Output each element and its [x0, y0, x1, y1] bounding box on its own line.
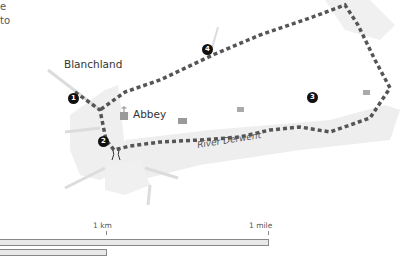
waypoint-1-marker: 1 [68, 93, 79, 104]
waypoint-2-marker: 2 [98, 136, 109, 147]
building-1 [178, 118, 187, 124]
scale-mile-tick [268, 231, 269, 235]
road-s2 [148, 185, 150, 205]
scale-bar-km [0, 249, 107, 256]
scale-km-label: 1 km [93, 221, 112, 230]
waypoint-4-marker: 4 [202, 44, 213, 55]
waypoint-3-marker: 3 [307, 92, 318, 103]
building-2 [237, 107, 244, 112]
abbey-building [120, 112, 128, 120]
scale-km-tick [106, 231, 107, 235]
village-label: Blanchland [64, 58, 122, 70]
scale-mile-label: 1 mile [249, 221, 272, 230]
building-3 [363, 90, 370, 95]
walk-route-map [0, 0, 405, 261]
woodland-ne [325, 0, 395, 40]
road-nw [48, 70, 100, 110]
scale-bar-mile [0, 239, 269, 246]
abbey-label: Abbey [133, 108, 166, 120]
